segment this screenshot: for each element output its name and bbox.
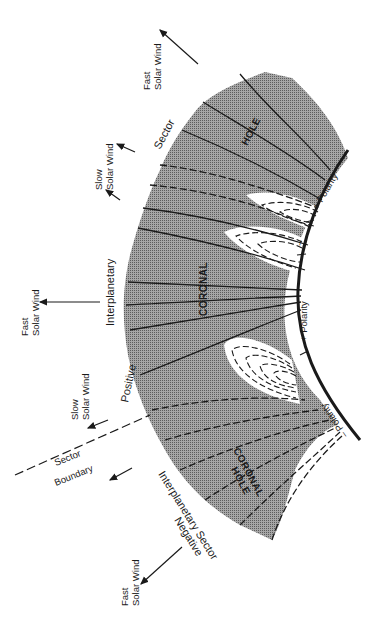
label-slow-lower-2: Solar Wind <box>80 374 91 420</box>
arrow-fast-solar-wind-bottom <box>141 547 182 584</box>
label-slow-upper-1: Slow <box>93 169 104 190</box>
label-interplanetary: Interplanetary <box>104 258 116 326</box>
coronal-field-diagram: Fast Solar Wind Sector Slow Solar Wind I… <box>0 0 369 628</box>
label-slow-upper-2: Solar Wind <box>104 144 115 190</box>
label-fast-bottom-2: Solar Wind <box>130 560 141 606</box>
label-coronal-middle: CORONAL <box>198 262 209 316</box>
arrow-slow-solar-wind-upper-2 <box>106 190 120 200</box>
label-positive: Positive <box>118 363 138 403</box>
label-fast-middle-1: Fast <box>19 317 30 336</box>
label-sector-boundary-1: Sector <box>53 447 83 467</box>
arrow-slow-solar-wind-lower-2 <box>110 468 132 480</box>
label-fast-bottom-1: Fast <box>119 587 130 606</box>
label-fast-middle-2: Solar Wind <box>30 290 41 336</box>
arrow-slow-solar-wind-upper-1 <box>117 144 135 152</box>
label-slow-lower-1: Slow <box>69 399 80 420</box>
arrow-fast-solar-wind-top <box>160 30 198 64</box>
arrow-slow-solar-wind-lower-1 <box>88 420 108 428</box>
label-fast-top-2: Solar Wind <box>152 44 163 90</box>
label-fast-top-1: Fast <box>141 71 152 90</box>
label-polarity-plus-middle: + Polarity <box>298 301 309 341</box>
